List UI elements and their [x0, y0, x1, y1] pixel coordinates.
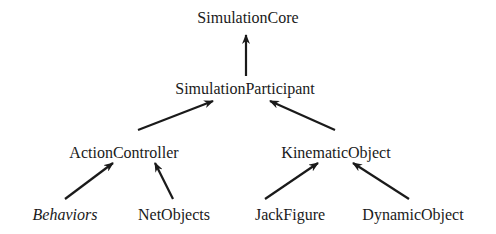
arrow-kinematicobject-to-simulationparticipant — [270, 101, 335, 130]
node-simulationparticipant: SimulationParticipant — [175, 81, 315, 97]
node-kinematicobject: KinematicObject — [281, 145, 390, 161]
node-netobjects: NetObjects — [138, 207, 210, 223]
inheritance-edges — [0, 0, 496, 234]
class-hierarchy-diagram: SimulationCoreSimulationParticipantActio… — [0, 0, 496, 234]
arrow-netobjects-to-actioncontroller — [155, 163, 173, 199]
node-dynamicobject: DynamicObject — [362, 207, 463, 223]
node-actioncontroller: ActionController — [69, 145, 178, 161]
node-jackfigure: JackFigure — [255, 207, 325, 223]
node-simulationcore: SimulationCore — [197, 10, 298, 26]
arrow-dynamicobject-to-kinematicobject — [353, 163, 409, 199]
node-behaviors: Behaviors — [33, 207, 98, 223]
arrow-behaviors-to-actioncontroller — [65, 163, 113, 199]
arrow-jackfigure-to-kinematicobject — [265, 163, 318, 199]
arrow-actioncontroller-to-simulationparticipant — [138, 101, 213, 130]
